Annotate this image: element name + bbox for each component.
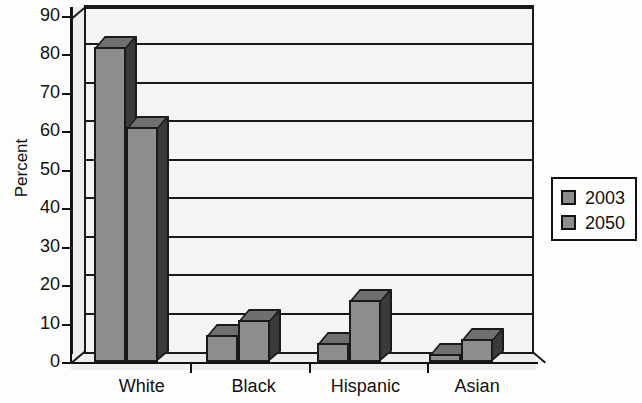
legend-swatch-icon: [561, 215, 576, 230]
bar-series-layer: [0, 0, 642, 403]
bar-hispanic-2050: [349, 300, 381, 362]
bar-white-2050: [126, 127, 158, 362]
x-axis-tick-mark: [190, 363, 192, 373]
legend-swatch-icon: [561, 190, 576, 205]
bar-asian-2050: [461, 339, 493, 362]
x-axis-tick-mark: [309, 363, 311, 373]
x-axis-label-black: Black: [194, 376, 314, 397]
legend-label: 2050: [585, 214, 625, 232]
legend-label: 2003: [585, 189, 625, 207]
x-axis-label-white: White: [82, 376, 202, 397]
bar-black-2003: [206, 335, 238, 362]
bar-white-2003: [94, 47, 126, 362]
bar-chart: Percent 9080706050403020100 WhiteBlackHi…: [0, 0, 642, 403]
x-axis-label-hispanic: Hispanic: [305, 376, 425, 397]
bar-hispanic-2003: [317, 343, 349, 362]
legend: 20032050: [551, 177, 637, 241]
legend-item-2003: 2003: [561, 185, 635, 210]
bar-black-2050: [238, 320, 270, 362]
bar-asian-2003: [429, 354, 461, 362]
x-axis-label-asian: Asian: [417, 376, 537, 397]
x-axis-tick-mark: [427, 363, 429, 373]
legend-item-2050: 2050: [561, 210, 635, 235]
